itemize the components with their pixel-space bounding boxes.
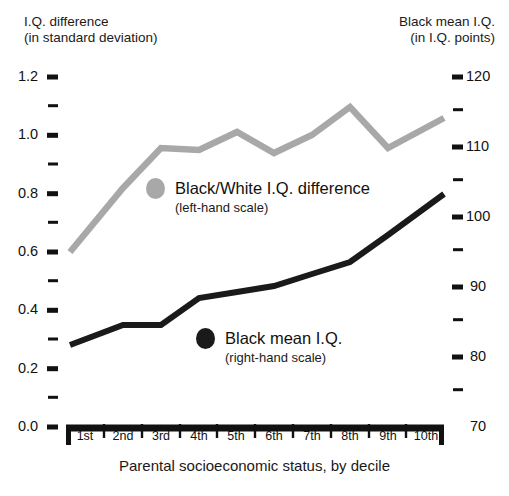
chart-container: I.Q. difference (in standard deviation) … [0,0,509,496]
legend-marker-grey-dot-icon [146,178,165,199]
x-tick-label-2nd: 2nd [113,430,134,443]
x-tick-label-7th: 7th [303,430,320,443]
x-tick-label-9th: 9th [379,430,396,443]
left-tick-label-1.0: 1.0 [18,127,38,142]
legend-item-bw-difference: Black/White I.Q. difference (left-hand s… [146,178,370,215]
legend-scale-note-bw-difference: (left-hand scale) [175,200,370,215]
right-axis-major-ticks [452,75,463,360]
x-tick-label-1st: 1st [77,430,94,443]
right-axis-minor-ticks [453,108,463,391]
left-tick-label-0.4: 0.4 [18,302,38,317]
left-tick-label-0.8: 0.8 [18,186,38,201]
right-tick-label-120: 120 [466,69,490,84]
left-tick-label-0.0: 0.0 [18,419,38,434]
legend-item-black-mean-iq: Black mean I.Q. (right-hand scale) [196,328,342,365]
legend-marker-black-dot-icon [196,328,215,349]
left-axis-major-ticks [47,75,58,430]
x-tick-label-8th: 8th [341,430,358,443]
legend-label-black-mean-iq: Black mean I.Q. [225,329,342,348]
x-tick-label-3rd: 3rd [152,430,170,443]
series-line-black-mean-iq [70,194,444,345]
x-tick-label-5th: 5th [227,430,244,443]
x-tick-label-6th: 6th [265,430,282,443]
right-tick-label-110: 110 [466,139,489,154]
x-tick-label-4th: 4th [190,430,207,443]
x-tick-label-10th: 10th [414,430,438,443]
left-tick-label-0.6: 0.6 [18,244,38,259]
plot-area [0,0,509,496]
left-tick-label-1.2: 1.2 [18,69,38,84]
right-tick-label-90: 90 [470,279,486,294]
x-axis-title: Parental socioeconomic status, by decile [0,457,509,474]
legend-scale-note-black-mean-iq: (right-hand scale) [225,350,342,365]
right-tick-label-80: 80 [470,349,486,364]
right-tick-label-100: 100 [466,209,490,224]
right-tick-label-70: 70 [470,419,486,434]
left-tick-label-0.2: 0.2 [18,361,38,376]
legend-label-bw-difference: Black/White I.Q. difference [175,179,370,198]
